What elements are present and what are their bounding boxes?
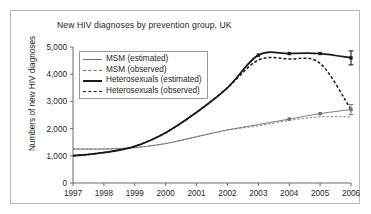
figure-frame: New HIV diagnoses by prevention group, U… xyxy=(10,10,360,204)
x-tick-label: 2001 xyxy=(187,189,206,198)
series-marker xyxy=(288,52,291,55)
y-tick-label: 4,000 xyxy=(47,70,68,79)
legend-item: MSM (estimated) xyxy=(83,54,202,65)
chart-legend: MSM (estimated)MSM (observed)Heterosexua… xyxy=(79,51,208,99)
y-tick-label: 0 xyxy=(62,179,67,188)
x-tick-label: 2003 xyxy=(249,189,268,198)
legend-swatch-icon xyxy=(83,65,102,75)
x-tick-label: 2004 xyxy=(280,189,299,198)
series-line xyxy=(73,117,351,149)
legend-swatch-icon xyxy=(83,54,102,64)
y-tick-label: 3,000 xyxy=(47,97,68,106)
legend-item: Heterosexuals (estimated) xyxy=(83,75,202,86)
chart-plot-area: 01,0002,0003,0004,0005,000 1997199819992… xyxy=(11,11,361,205)
series-marker xyxy=(257,53,260,56)
legend-label: MSM (observed) xyxy=(106,65,167,76)
x-tick-label: 1998 xyxy=(95,189,114,198)
series-marker xyxy=(288,117,291,120)
y-axis-ticks: 01,0002,0003,0004,0005,000 xyxy=(47,43,74,188)
y-tick-label: 5,000 xyxy=(47,43,68,52)
x-tick-label: 2002 xyxy=(218,189,237,198)
legend-swatch-icon xyxy=(83,86,102,96)
x-tick-label: 2005 xyxy=(311,189,330,198)
legend-label: Heterosexuals (estimated) xyxy=(106,75,202,86)
series-marker xyxy=(318,52,321,55)
legend-item: MSM (observed) xyxy=(83,65,202,76)
series-line xyxy=(73,110,351,150)
y-tick-label: 2,000 xyxy=(47,125,68,134)
x-tick-label: 2000 xyxy=(157,189,176,198)
x-axis-ticks: 1997199819992000200120022003200420052006 xyxy=(64,183,361,198)
x-tick-label: 2006 xyxy=(342,189,361,198)
x-tick-label: 1999 xyxy=(126,189,145,198)
legend-label: Heterosexuals (observed) xyxy=(106,86,200,97)
series-marker xyxy=(318,112,321,115)
x-tick-label: 1997 xyxy=(64,189,83,198)
legend-item: Heterosexuals (observed) xyxy=(83,86,202,97)
y-tick-label: 1,000 xyxy=(47,152,68,161)
chart-markers-group xyxy=(257,51,354,121)
legend-label: MSM (estimated) xyxy=(106,54,168,65)
legend-swatch-icon xyxy=(83,75,102,85)
